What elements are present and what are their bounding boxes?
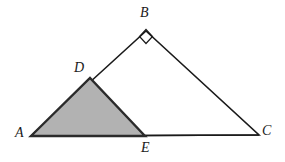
vertex-label-a: A [15, 126, 24, 140]
vertex-label-d: D [74, 61, 84, 75]
geometry-canvas [0, 0, 285, 162]
vertex-label-b: B [140, 6, 149, 20]
geometry-figure: A B C D E [0, 0, 285, 162]
triangle-ade-shaded [31, 78, 145, 136]
vertex-label-c: C [262, 124, 271, 138]
vertex-label-e: E [141, 141, 150, 155]
